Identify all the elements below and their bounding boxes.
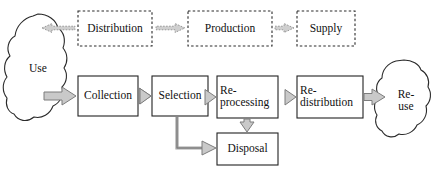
arrow-collection-to-selection	[139, 88, 151, 104]
arrow-selection-to-reprocessing	[205, 90, 216, 106]
node-box-supply[interactable]	[297, 11, 355, 46]
node-box-selection[interactable]	[152, 76, 208, 116]
node-box-redistribution[interactable]	[297, 76, 363, 118]
arrow-selection-to-disposal	[177, 117, 216, 155]
node-box-distribution[interactable]	[78, 11, 152, 46]
lifecycle-diagram: Distribution Production Supply Collectio…	[0, 0, 435, 180]
node-box-disposal[interactable]	[217, 133, 278, 165]
arrow-reprocessing-to-redistribution	[285, 90, 296, 106]
node-box-reprocessing[interactable]	[217, 76, 278, 118]
arrow-production-to-distribution	[156, 24, 185, 33]
diagram-canvas	[0, 0, 435, 180]
arrow-supply-to-production	[275, 24, 294, 33]
node-box-production[interactable]	[188, 11, 272, 46]
node-box-collection[interactable]	[78, 76, 138, 116]
arrow-reprocessing-to-disposal	[240, 119, 254, 132]
